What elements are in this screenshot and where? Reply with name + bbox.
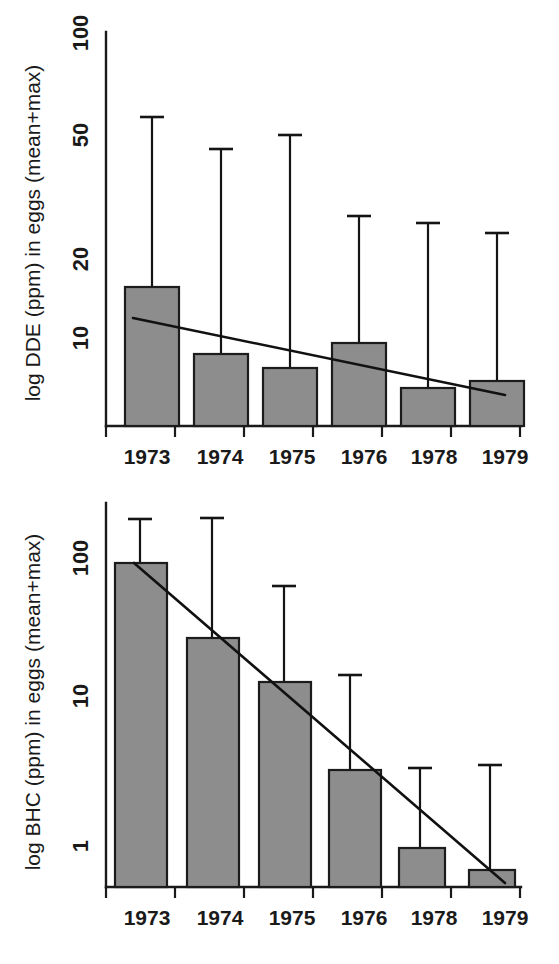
y-tick-label-10: 10: [68, 326, 93, 350]
y-tick-label-100: 100: [68, 15, 93, 52]
bar-1974: [194, 354, 248, 426]
x-axis-ticks-bhc: [106, 887, 520, 898]
dde-chart-svg: log DDE (ppm) in eggs (mean+max) 100 50 …: [0, 0, 559, 480]
bar-1976: [329, 770, 381, 887]
bar-1975: [259, 682, 311, 887]
x-tick-label-1973: 1973: [124, 445, 171, 468]
x-tick-label-1974: 1974: [197, 906, 244, 929]
y-tick-labels-bhc: 100 10 1: [68, 540, 93, 852]
bar-1979: [470, 381, 524, 426]
trendline-dde: [133, 318, 505, 395]
x-axis-ticks-dde: [106, 426, 520, 437]
y-axis-title-bhc: log BHC (ppm) in eggs (mean+max): [21, 534, 44, 871]
bar-1974: [187, 638, 239, 887]
bhc-chart-svg: log BHC (ppm) in eggs (mean+max) 100 10 …: [0, 480, 559, 964]
y-tick-label-50: 50: [68, 123, 93, 147]
y-axis-title-dde: log DDE (ppm) in eggs (mean+max): [21, 65, 44, 402]
y-tick-label-10: 10: [68, 684, 93, 708]
y-tick-label-100: 100: [68, 540, 93, 577]
chart-panel-dde: log DDE (ppm) in eggs (mean+max) 100 50 …: [0, 0, 559, 480]
x-tick-labels-dde: 1973 1974 1975 1976 1978 1979: [124, 445, 529, 468]
x-tick-labels-bhc: 1973 1974 1975 1976 1978 1979: [124, 906, 529, 929]
y-tick-label-1: 1: [68, 840, 93, 852]
y-tick-label-20: 20: [68, 247, 93, 271]
x-tick-label-1973: 1973: [124, 906, 171, 929]
x-tick-label-1976: 1976: [341, 906, 388, 929]
chart-panel-bhc: log BHC (ppm) in eggs (mean+max) 100 10 …: [0, 480, 559, 964]
bar-1973: [125, 287, 179, 426]
y-tick-labels-dde: 100 50 20 10: [68, 15, 93, 351]
x-tick-label-1978: 1978: [411, 445, 458, 468]
bar-1978: [401, 388, 455, 426]
bar-1975: [263, 368, 317, 426]
x-tick-label-1974: 1974: [197, 445, 244, 468]
bar-1973: [115, 563, 167, 887]
x-tick-label-1979: 1979: [482, 906, 529, 929]
x-tick-label-1975: 1975: [269, 445, 316, 468]
x-tick-label-1976: 1976: [341, 445, 388, 468]
two-panel-log-bar-figure: log DDE (ppm) in eggs (mean+max) 100 50 …: [0, 0, 559, 964]
x-tick-label-1979: 1979: [482, 445, 529, 468]
bar-1978: [399, 848, 445, 887]
x-tick-label-1978: 1978: [411, 906, 458, 929]
x-tick-label-1975: 1975: [269, 906, 316, 929]
bar-1976: [332, 343, 386, 426]
